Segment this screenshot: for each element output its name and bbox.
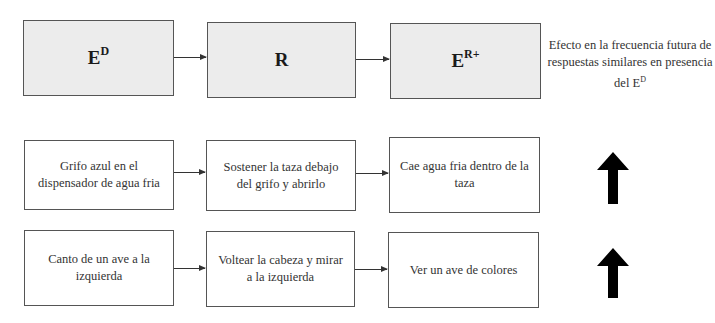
effect-description: Efecto en la frecuencia futura de respue… <box>545 37 715 92</box>
example-2-consequence-box: Ver un ave de colores <box>388 232 539 308</box>
response-header-box: R <box>207 22 356 98</box>
example-1-consequence-box: Cae agua fria dentro de la taza <box>389 137 540 213</box>
connector-arrow <box>356 59 389 60</box>
example-1-response-box: Sostener la taza debajo del grifo y abri… <box>206 140 356 211</box>
ed-label: ED <box>88 46 109 69</box>
up-arrow-icon <box>596 248 630 298</box>
r-label: R <box>275 49 289 71</box>
connector-arrow <box>174 172 205 173</box>
consequence-text: Ver un ave de colores <box>410 262 518 279</box>
connector-arrow <box>174 57 206 58</box>
consequence-text: Cae agua fria dentro de la taza <box>398 158 531 192</box>
discriminative-stimulus-header-box: ED <box>23 20 174 96</box>
example-2-response-box: Voltear la cabeza y mirar a la izquierda <box>206 231 355 307</box>
example-2-stimulus-box: Canto de un ave a la izquierda <box>24 230 174 306</box>
stimulus-text: Grifo azul en el dispensador de agua fri… <box>33 158 165 192</box>
connector-arrow <box>355 269 387 270</box>
response-text: Voltear la cabeza y mirar a la izquierda <box>215 252 346 286</box>
response-text: Sostener la taza debajo del grifo y abri… <box>215 159 347 193</box>
stimulus-text: Canto de un ave a la izquierda <box>33 251 165 285</box>
connector-arrow <box>356 173 388 174</box>
connector-arrow <box>174 268 205 269</box>
example-1-stimulus-box: Grifo azul en el dispensador de agua fri… <box>24 140 174 210</box>
up-arrow-icon <box>596 152 630 204</box>
reinforcer-header-box: ER+ <box>390 23 541 99</box>
er-label: ER+ <box>451 49 479 72</box>
